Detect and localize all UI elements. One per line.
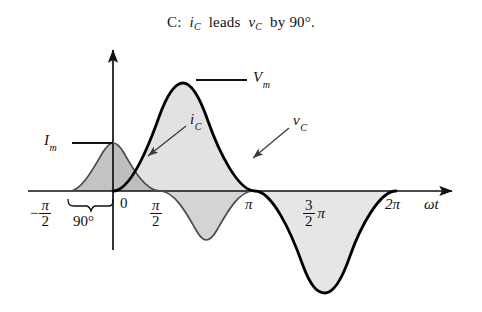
vc-curve-label: vC: [293, 113, 306, 131]
im-label: Im: [44, 133, 56, 151]
caption-prefix: C:: [167, 14, 182, 30]
xtick-pi: π: [245, 197, 253, 212]
caption-ic-sub: C: [194, 21, 201, 32]
x-axis-label: ωt: [424, 197, 439, 212]
xtick-three-halves-pi: 3 2 π: [303, 198, 325, 229]
waveform-figure: [0, 0, 482, 312]
xtick-minus-pi-over-2: − π 2: [30, 198, 51, 229]
xtick-pi-over-2: π 2: [150, 198, 162, 229]
caption-leads-word: leads: [209, 14, 241, 30]
phase-brace-label: 90°: [73, 214, 94, 229]
voltage-fill-region: [113, 83, 396, 293]
ic-curve-label: iC: [190, 112, 201, 130]
figure-caption: C: iC leads vC by 90°.: [0, 14, 482, 31]
phase-brace: [68, 199, 113, 211]
vc-pointer-arrow: [253, 128, 289, 158]
caption-end: by 90°.: [270, 14, 315, 30]
xtick-zero: 0: [120, 196, 128, 211]
vm-label: Vm: [253, 70, 269, 88]
caption-vc-sub: C: [255, 21, 262, 32]
xtick-two-pi: 2π: [385, 197, 400, 212]
